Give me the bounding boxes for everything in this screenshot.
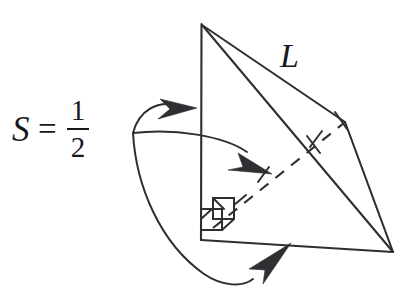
arrow-head-lower [249, 243, 291, 284]
arrow-head-upper [158, 99, 197, 119]
right-angle-markers [201, 195, 246, 230]
area-formula: S = 1 2 [12, 96, 91, 163]
arrow-curve-middle [133, 132, 247, 152]
formula-numerator: 1 [67, 96, 90, 127]
motion-arrows [133, 99, 291, 284]
edge-back-right-to-base-right [345, 122, 393, 252]
tick-mark-hidden-upper [310, 131, 322, 147]
formula-fraction: 1 2 [65, 96, 92, 163]
formula-variable-s: S [12, 112, 30, 147]
hidden-edge-group [213, 123, 344, 228]
slant-edge-label: L [279, 37, 299, 74]
right-angle-tick-upper [213, 198, 224, 209]
arrow-head-middle [228, 153, 272, 174]
edge-tick-marks [258, 112, 347, 182]
edge-front-left-to-back-right-dashed [213, 123, 344, 228]
right-angle-tick-left [201, 209, 212, 219]
right-angle-tick-lower [222, 220, 233, 230]
edge-apex-to-front-left [201, 24, 202, 240]
fraction-bar [67, 128, 90, 130]
formula-denominator: 2 [67, 132, 90, 163]
formula-equals-sign: = [37, 113, 58, 146]
right-angle-tick-diagonal [234, 195, 246, 205]
edge-front-left-to-base-right [201, 240, 393, 252]
edge-apex-to-back-right [202, 25, 345, 122]
figure-canvas: L S = 1 2 [0, 0, 413, 305]
